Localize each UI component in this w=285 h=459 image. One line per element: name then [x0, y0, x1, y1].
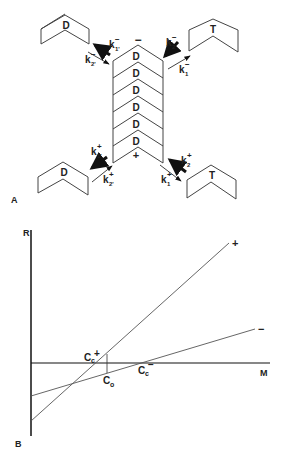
svg-text:c: c — [145, 370, 149, 377]
svg-text:−: − — [172, 33, 177, 42]
svg-text:+: + — [167, 170, 172, 179]
figure: − D D D D D D + D T D T — [0, 0, 285, 459]
svg-text:2: 2 — [187, 162, 191, 168]
filament-subunit-1: D — [132, 51, 139, 62]
rate-label-bottom-left-off: k 1' + — [91, 142, 102, 159]
free-subunit-top-left-label: D — [62, 20, 69, 31]
svg-text:2': 2' — [109, 181, 114, 187]
y-axis-label: R — [23, 228, 30, 238]
svg-text:1': 1' — [97, 153, 102, 159]
filament-subunit-6: D — [132, 136, 139, 147]
svg-text:1: 1 — [185, 71, 189, 77]
rate-label-top-right-off: k 1 − — [179, 60, 190, 77]
free-subunit-bottom-left-label: D — [60, 167, 67, 178]
svg-text:−: − — [91, 50, 96, 59]
filament-subunit-2: D — [132, 68, 139, 79]
svg-text:1: 1 — [167, 181, 171, 187]
c0-label: C o — [103, 375, 114, 388]
svg-text:+: + — [109, 170, 114, 179]
svg-text:−: − — [185, 60, 190, 69]
free-subunit-bottom-right-label: T — [209, 170, 215, 181]
svg-text:−: − — [115, 35, 120, 44]
panel-b-label: B — [15, 439, 22, 449]
rate-label-bottom-left-on: k 2' + — [103, 170, 114, 187]
svg-text:o: o — [110, 381, 114, 388]
svg-text:+: + — [97, 142, 102, 151]
x-axis-label: M — [260, 368, 268, 378]
panel-b: R M + − C c + C o C c − B — [15, 228, 270, 449]
minus-end-label: − — [134, 33, 141, 47]
rate-label-top-left-off: k 1' − — [109, 35, 120, 52]
svg-text:+: + — [94, 348, 100, 359]
panel-a-label: A — [11, 195, 18, 205]
filament-subunit-5: D — [132, 119, 139, 130]
rate-label-bottom-right-off: k 1 + — [161, 170, 172, 187]
plus-line-label: + — [232, 237, 238, 249]
svg-text:2': 2' — [91, 61, 96, 67]
filament-subunit-3: D — [132, 85, 139, 96]
svg-text:+: + — [187, 151, 192, 160]
rate-label-top-left-on: k 2' − — [85, 50, 96, 67]
panel-a: − D D D D D D + D T D T — [11, 14, 238, 205]
rate-label-top-right-on: k 2 − — [166, 33, 177, 50]
svg-text:−: − — [148, 359, 154, 370]
filament-subunit-4: D — [132, 102, 139, 113]
free-subunit-top-right-label: T — [210, 24, 216, 35]
svg-text:1': 1' — [115, 46, 120, 52]
arrow-top-left-off — [95, 45, 110, 55]
rate-label-bottom-right-on: k 2 + — [181, 151, 192, 168]
plus-end-label: + — [133, 149, 139, 161]
plus-end-line — [31, 243, 229, 421]
minus-line-label: − — [258, 323, 264, 335]
